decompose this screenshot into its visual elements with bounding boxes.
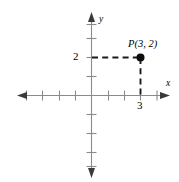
y-axis-down-arrow-icon [88,168,95,178]
x-tick-label-3: 3 [137,99,143,111]
plotted-point-P [137,54,145,62]
point-label-P: P(3, 2) [128,38,157,49]
y-tick-label-2: 2 [73,50,79,62]
axes-svg [0,0,179,182]
coordinate-plane-figure: y x 2 3 P(3, 2) [0,0,179,182]
x-axis-right-arrow-icon [160,92,170,99]
y-axis-label: y [99,14,103,24]
y-axis-up-arrow-icon [88,12,95,22]
x-axis-left-arrow-icon [17,92,27,99]
x-axis-label: x [166,78,170,88]
